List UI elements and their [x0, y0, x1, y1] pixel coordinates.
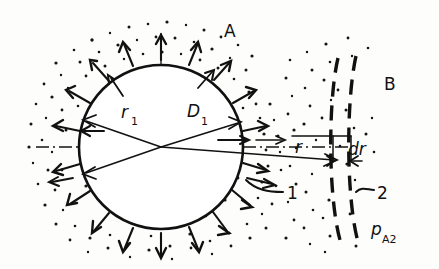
figure-root: A B r 1 D 1 r dr 1 2 p A2: [0, 0, 439, 269]
pressure-subscript: A2: [382, 233, 397, 246]
dashed-arc-inner: [331, 58, 340, 240]
label-region-b: B: [384, 74, 396, 94]
diameter-symbol: D: [187, 101, 200, 121]
label-marker-one: 1: [287, 183, 298, 203]
label-shell-radius: r: [295, 137, 303, 157]
label-partial-pressure: p A2: [370, 219, 397, 246]
marker-two-value: 2: [377, 183, 388, 203]
diffusion-diagram: A B r 1 D 1 r dr 1 2 p A2: [0, 0, 439, 269]
leader-to-marker-two: [356, 189, 374, 192]
radius-subscript: 1: [131, 115, 138, 128]
label-region-a: A: [224, 21, 236, 41]
label-shell-thickness: dr: [348, 139, 367, 159]
label-marker-two: 2: [377, 183, 388, 203]
pressure-symbol: p: [370, 219, 382, 239]
radius-symbol: r: [121, 102, 129, 122]
diameter-subscript: 1: [201, 115, 208, 128]
